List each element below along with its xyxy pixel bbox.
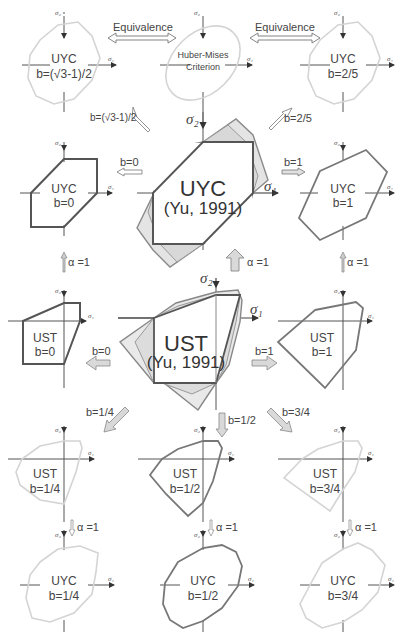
axis-sigma1-label: σ₁	[88, 450, 94, 457]
row5-center-name: UYC	[190, 575, 215, 587]
alpha-label-center: α =1	[247, 257, 269, 268]
row4-left-name: UST	[33, 468, 57, 480]
row5-center-param: b=1/2	[188, 590, 218, 602]
axis-sigma1-label: σ₁	[247, 56, 253, 63]
axis-sigma2-label-big: σ₂	[186, 112, 199, 127]
diag-arrow-label-right: b=2/5	[284, 113, 312, 124]
row4-right-name: UST	[313, 468, 337, 480]
row5-left-name: UYC	[51, 575, 76, 587]
row2-left-param: b=0	[54, 197, 74, 209]
diagram-canvas	[0, 0, 406, 644]
axis-sigma2-label: σ₂	[334, 140, 340, 147]
alpha-arrow-down-left	[69, 520, 75, 536]
row5-left-param: b=1/4	[49, 590, 79, 602]
row2-left-name: UYC	[51, 183, 76, 195]
alpha-down-label-right: α =1	[355, 522, 377, 533]
row2-center-name: UYC	[180, 178, 226, 200]
axis-sigma1-label: σ₁	[108, 184, 114, 191]
axis-sigma1-label-big: σ₁	[264, 179, 277, 194]
row5-right-param: b=3/4	[328, 590, 358, 602]
equivalence-label-right: Equivalence	[255, 22, 315, 33]
equivalence-label-left: Equivalence	[113, 22, 173, 33]
axis-sigma2-label: σ₂	[194, 10, 200, 17]
alpha-label-left: α =1	[68, 257, 90, 268]
row2-right-name: UYC	[330, 183, 355, 195]
alpha-arrow-down-center	[208, 520, 214, 536]
equivalence-arrow-right	[250, 33, 320, 43]
alpha-arrow-center	[226, 249, 244, 271]
row3-left-name: UST	[33, 332, 57, 344]
equivalence-arrow-left	[108, 33, 176, 43]
arrow-right-b1-row3	[252, 356, 277, 370]
axis-sigma2-label: σ₂	[194, 532, 200, 539]
row1-left-param: b=(√3-1)/2	[36, 68, 92, 80]
axis-sigma1-label: σ₁	[248, 576, 254, 583]
axis-sigma1-label: σ₁	[108, 576, 114, 583]
alpha-arrow-right	[340, 252, 346, 272]
arrow-label-b-3-4: b=3/4	[282, 407, 310, 418]
axis-sigma1-label: σ₁	[388, 576, 394, 583]
arrow-left-b0-row3	[86, 356, 110, 370]
row3-center-ref: (Yu, 1991)	[147, 354, 225, 371]
diag-arrow-label-left: b=(√3-1)/2	[90, 113, 136, 123]
row4-center-name: UST	[173, 468, 197, 480]
row1-center-name-2: Criterion	[186, 63, 220, 72]
axis-sigma2-label: σ₂	[55, 427, 61, 434]
row1-left-name: UYC	[51, 53, 76, 65]
axis-sigma1-label: σ₁	[228, 450, 234, 457]
arrow-left-label-row2: b=0	[120, 157, 139, 168]
row3-right-name: UST	[310, 332, 334, 344]
axis-sigma2-label: σ₂	[55, 10, 61, 17]
row3-right-param: b=1	[312, 346, 332, 358]
axis-sigma2-label: σ₂	[334, 288, 340, 295]
axis-sigma2-label: σ₂	[194, 427, 200, 434]
axis-sigma2-label: σ₂	[334, 427, 340, 434]
row4-center-param: b=1/2	[170, 483, 200, 495]
arrow-label-b-1-2: b=1/2	[228, 415, 256, 426]
axis-sigma2-label: σ₂	[334, 10, 340, 17]
axis-sigma1-label: σ₁	[387, 184, 393, 191]
arrow-right-label-row3: b=1	[255, 346, 274, 357]
alpha-arrow-down-right	[347, 520, 353, 536]
row1-right-name: UYC	[330, 53, 355, 65]
arrow-label-b-1-4: b=1/4	[86, 407, 114, 418]
axis-sigma2-label: σ₂	[55, 140, 61, 147]
row5-right-name: UYC	[330, 575, 355, 587]
row1-center-name-1: Huber-Mises	[177, 51, 228, 60]
arrow-right-b1-row2	[282, 168, 305, 176]
row4-right-param: b=3/4	[310, 483, 340, 495]
row2-center-ref: (Yu, 1991)	[164, 200, 242, 217]
alpha-down-label-center: α =1	[216, 522, 238, 533]
axis-sigma1-label: σ₁	[88, 313, 94, 320]
axis-sigma1-label: σ₁	[387, 56, 393, 63]
axis-sigma1-label: σ₁	[368, 313, 374, 320]
row2-right-param: b=1	[333, 197, 353, 209]
alpha-label-right: α =1	[347, 257, 369, 268]
row1-right-param: b=2/5	[328, 68, 358, 80]
axis-sigma2-label: σ₂	[55, 532, 61, 539]
alpha-down-label-left: α =1	[77, 522, 99, 533]
axis-sigma2-label: σ₂	[55, 288, 61, 295]
arrow-b-1-2	[216, 413, 228, 437]
alpha-arrow-left	[61, 252, 67, 272]
axis-sigma1-label: σ₁	[108, 56, 114, 63]
row3-left-param: b=0	[35, 346, 55, 358]
arrow-right-label-row2: b=1	[284, 157, 303, 168]
axis-sigma1-label-big: σ₁	[250, 302, 263, 317]
row4-left-param: b=1/4	[30, 483, 60, 495]
row3-center-name: UST	[164, 333, 208, 355]
axis-sigma2-label-big: σ₂	[200, 271, 213, 286]
axis-sigma1-label: σ₁	[368, 450, 374, 457]
arrow-left-b0-row2	[117, 168, 142, 176]
arrow-left-label-row3: b=0	[92, 346, 111, 357]
axis-sigma2-label: σ₂	[334, 532, 340, 539]
